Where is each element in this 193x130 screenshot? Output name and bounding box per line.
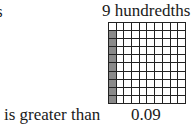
grid-cell [132, 47, 139, 54]
grid-cell [155, 96, 162, 103]
grid-cell [163, 96, 170, 103]
grid-cell [178, 96, 185, 103]
grid-cell [171, 72, 178, 79]
grid-cell [163, 47, 170, 54]
grid-cell [155, 72, 162, 79]
grid-cell [155, 31, 162, 38]
grid-cell [132, 80, 139, 87]
grid-cell [155, 63, 162, 70]
grid-cell [155, 39, 162, 46]
grid-cell [163, 31, 170, 38]
grid-cell [124, 80, 131, 87]
model-title: 9 hundredths [102, 1, 190, 21]
grid-cell [155, 55, 162, 62]
grid-cell [124, 96, 131, 103]
grid-cell [178, 31, 185, 38]
grid-cell [140, 31, 147, 38]
grid-cell [140, 55, 147, 62]
grid-cell [124, 88, 131, 95]
grid-cell [117, 23, 124, 30]
grid-cell [117, 55, 124, 62]
grid-cell [109, 31, 116, 38]
hundredths-grid [108, 22, 186, 104]
grid-cell [155, 23, 162, 30]
comparison-text: is greater than [4, 105, 100, 125]
grid-cell [109, 39, 116, 46]
grid-cell [117, 88, 124, 95]
grid-cell [109, 47, 116, 54]
grid-cell [132, 39, 139, 46]
grid-cell [178, 88, 185, 95]
grid-cell [147, 72, 154, 79]
grid-cell [117, 39, 124, 46]
cropped-text-fragment: s [0, 2, 3, 22]
grid-cell [178, 80, 185, 87]
grid-cell [171, 63, 178, 70]
grid-cell [147, 31, 154, 38]
grid-cell [140, 72, 147, 79]
grid-cell [117, 96, 124, 103]
grid-cell [163, 72, 170, 79]
grid-cell [140, 47, 147, 54]
grid-cell [147, 39, 154, 46]
grid-cell [140, 63, 147, 70]
grid-cell [178, 72, 185, 79]
grid-cell [171, 39, 178, 46]
grid-cell [147, 47, 154, 54]
grid-cell [171, 47, 178, 54]
grid-cell [171, 55, 178, 62]
grid-cell [117, 72, 124, 79]
grid-cell [163, 88, 170, 95]
grid-cell [147, 23, 154, 30]
grid-cell [109, 88, 116, 95]
grid-cell [147, 63, 154, 70]
grid-cell [132, 31, 139, 38]
grid-cell [178, 55, 185, 62]
grid-cell [109, 80, 116, 87]
grid-cell [132, 55, 139, 62]
grid-cell [124, 39, 131, 46]
grid-cell [124, 72, 131, 79]
grid-cell [140, 80, 147, 87]
grid-cell [140, 39, 147, 46]
grid-cell [147, 88, 154, 95]
grid-cell [124, 31, 131, 38]
grid-cell [140, 23, 147, 30]
grid-cell [171, 96, 178, 103]
grid-cell [163, 55, 170, 62]
grid-cell [109, 55, 116, 62]
grid-cell [178, 63, 185, 70]
grid-cell [163, 23, 170, 30]
grid-cell [140, 88, 147, 95]
grid-cell [109, 63, 116, 70]
grid-cell [124, 63, 131, 70]
grid-cell [117, 63, 124, 70]
grid-cell [109, 72, 116, 79]
grid-cell [124, 55, 131, 62]
grid-cell [124, 23, 131, 30]
grid-cell [132, 88, 139, 95]
grid-cell [163, 63, 170, 70]
grid-cell [147, 80, 154, 87]
grid-cell [171, 23, 178, 30]
grid-cell [171, 88, 178, 95]
grid-cell [117, 31, 124, 38]
grid-cell [109, 96, 116, 103]
grid-cell [117, 47, 124, 54]
grid-cell [178, 23, 185, 30]
grid-cell [124, 47, 131, 54]
decimal-value: 0.09 [131, 105, 161, 125]
grid-cell [155, 47, 162, 54]
grid-cell [163, 80, 170, 87]
grid-cell [147, 55, 154, 62]
grid-cell [155, 88, 162, 95]
grid-cell [132, 23, 139, 30]
grid-cell [132, 63, 139, 70]
grid-cell [109, 23, 116, 30]
grid-cell [171, 31, 178, 38]
grid-cell [155, 80, 162, 87]
grid-cell [132, 96, 139, 103]
grid-cell [178, 47, 185, 54]
grid-cell [140, 96, 147, 103]
grid-cell [117, 80, 124, 87]
